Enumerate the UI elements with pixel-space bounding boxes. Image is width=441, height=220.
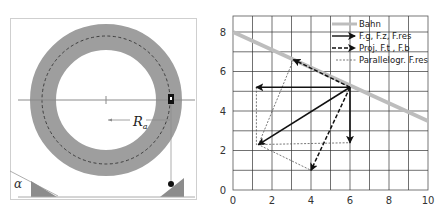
svg-text:8: 8 (386, 195, 392, 206)
legend-item-projection: Proj. F.t , F.b (359, 43, 410, 53)
ball-icon (168, 181, 174, 187)
svg-text:0: 0 (220, 185, 226, 196)
svg-text:2: 2 (220, 145, 226, 156)
y-tick-labels: 0 2 4 6 8 (220, 27, 226, 196)
svg-text:0: 0 (230, 195, 236, 206)
legend-item-forces: F.g, F.z, F.res (359, 31, 412, 41)
svg-text:4: 4 (220, 106, 226, 117)
svg-text:8: 8 (220, 27, 226, 38)
svg-text:6: 6 (347, 195, 353, 206)
figure: Ra α (0, 0, 441, 220)
svg-text:10: 10 (422, 195, 435, 206)
svg-text:2: 2 (269, 195, 275, 206)
legend-item-bahn: Bahn (359, 19, 381, 29)
svg-text:4: 4 (308, 195, 314, 206)
x-tick-labels: 0 2 4 6 8 10 (230, 195, 435, 206)
legend-item-parallelogram: Parallelogr. F.res (359, 55, 428, 65)
force-chart: Bahn F.g, F.z, F.res Proj. F.t , F.b Par… (220, 16, 435, 206)
angle-label: α (14, 177, 22, 191)
loop-track-diagram: Ra α (10, 19, 197, 200)
svg-text:6: 6 (220, 66, 226, 77)
